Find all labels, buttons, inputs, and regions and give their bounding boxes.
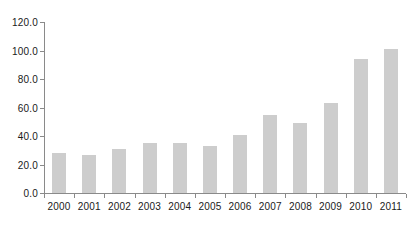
- x-axis-tick-label: 2003: [138, 201, 161, 212]
- x-axis-tick-label: 2010: [349, 201, 372, 212]
- bar: [233, 135, 247, 193]
- bar: [324, 103, 338, 193]
- x-axis-tick-mark: [376, 194, 377, 198]
- bar: [173, 143, 187, 193]
- bar: [293, 123, 307, 193]
- x-axis-labels: 2000200120022003200420052006200720082009…: [44, 201, 406, 217]
- x-axis-tick-mark: [225, 194, 226, 198]
- x-axis-tick-mark: [285, 194, 286, 198]
- x-axis-tick-mark: [165, 194, 166, 198]
- y-axis-tick-mark: [40, 165, 44, 166]
- bar: [52, 153, 66, 193]
- y-axis-tick-mark: [40, 79, 44, 80]
- y-axis-tick-label: 60.0: [18, 102, 38, 113]
- x-axis-tick-label: 2008: [289, 201, 312, 212]
- x-axis-tick-mark: [44, 194, 45, 198]
- x-axis-tick-label: 2009: [319, 201, 342, 212]
- y-axis-tick-label: 40.0: [18, 131, 38, 142]
- x-axis-tick-label: 2000: [48, 201, 71, 212]
- y-axis-tick-mark: [40, 136, 44, 137]
- bar: [354, 59, 368, 193]
- x-axis-tick-mark: [346, 194, 347, 198]
- x-axis-tick-mark: [104, 194, 105, 198]
- y-axis-tick-label: 120.0: [12, 17, 38, 28]
- bar: [112, 149, 126, 193]
- y-axis-tick-label: 80.0: [18, 74, 38, 85]
- y-axis-tick-label: 20.0: [18, 159, 38, 170]
- plot-area: 0.020.040.060.080.0100.0120.0: [44, 22, 406, 193]
- y-axis-tick-mark: [40, 22, 44, 23]
- x-axis-tick-label: 2001: [78, 201, 101, 212]
- x-axis-tick-mark: [195, 194, 196, 198]
- x-axis-ticks: [44, 194, 406, 199]
- bar: [203, 146, 217, 193]
- bar: [143, 143, 157, 193]
- bar: [82, 155, 96, 193]
- y-axis-tick-mark: [40, 51, 44, 52]
- bar: [384, 49, 398, 193]
- x-axis-tick-mark: [74, 194, 75, 198]
- x-axis-tick-label: 2002: [108, 201, 131, 212]
- y-axis-tick-label: 0.0: [23, 188, 38, 199]
- x-axis-tick-label: 2007: [259, 201, 282, 212]
- x-axis-tick-mark: [135, 194, 136, 198]
- x-axis-tick-label: 2011: [380, 201, 402, 212]
- x-axis-tick-mark: [255, 194, 256, 198]
- bar-chart: 0.020.040.060.080.0100.0120.0 2000200120…: [0, 0, 418, 228]
- y-axis-tick-label: 100.0: [12, 45, 38, 56]
- x-axis-tick-label: 2006: [229, 201, 252, 212]
- x-axis-tick-label: 2005: [198, 201, 221, 212]
- y-axis-tick-mark: [40, 108, 44, 109]
- x-axis-tick-label: 2004: [168, 201, 191, 212]
- x-axis-tick-mark: [316, 194, 317, 198]
- bar: [263, 115, 277, 193]
- x-axis-tick-mark: [406, 194, 407, 198]
